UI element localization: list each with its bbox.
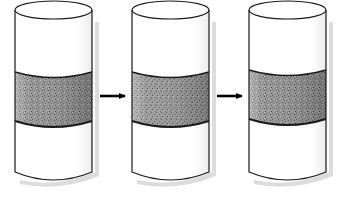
band-group-1 <box>15 72 92 127</box>
shaded-band-shading-3 <box>249 70 326 125</box>
cylinder-top-ellipse-1 <box>15 1 92 19</box>
shaded-band-shading-1 <box>15 72 92 127</box>
diagram-canvas <box>0 0 341 199</box>
cylinder-sequence-figure: Cylinder 1 Cylinder 2 Cylinder 3 <box>0 0 341 199</box>
cylinder-stage-3 <box>249 1 333 187</box>
shaded-band-shading-2 <box>132 72 209 127</box>
cylinder-top-ellipse-3 <box>249 1 326 19</box>
cylinder-top-ellipse-2 <box>132 1 209 19</box>
cylinder-stage-2 <box>132 1 216 187</box>
band-group-2 <box>132 72 209 127</box>
band-group-3 <box>249 70 326 125</box>
cylinder-stage-1 <box>15 1 99 187</box>
